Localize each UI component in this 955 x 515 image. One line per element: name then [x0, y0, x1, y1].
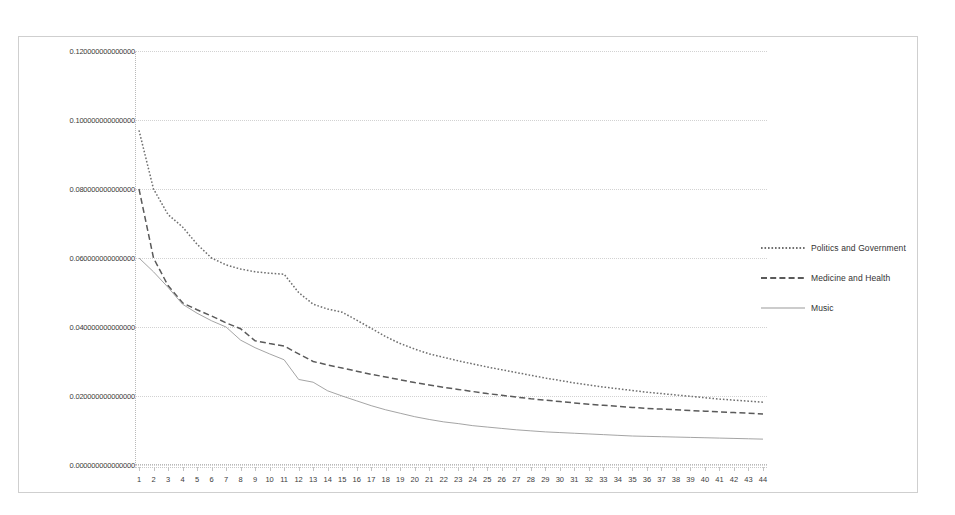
x-axis-tick-label: 17	[367, 475, 375, 484]
x-axis-tick-mark	[763, 467, 764, 471]
x-axis-tick-mark	[197, 467, 198, 471]
x-axis-tick-mark	[270, 467, 271, 471]
x-axis-tick-label: 35	[628, 475, 636, 484]
y-axis-tick-label: 0.080000000000000	[70, 185, 135, 194]
x-axis-tick-label: 38	[672, 475, 680, 484]
x-axis-tick-label: 20	[411, 475, 419, 484]
x-axis-tick-label: 32	[585, 475, 593, 484]
legend-item[interactable]: Music	[761, 297, 951, 318]
x-axis-tick-mark	[618, 467, 619, 471]
x-axis-tick-mark	[168, 467, 169, 471]
x-axis-tick-label: 10	[265, 475, 273, 484]
x-axis-tick-label: 37	[657, 475, 665, 484]
x-axis-tick-mark	[458, 467, 459, 471]
legend-label: Music	[811, 303, 834, 313]
x-axis-tick-mark	[415, 467, 416, 471]
x-axis-tick-mark	[444, 467, 445, 471]
x-axis-tick-mark	[560, 467, 561, 471]
legend-item[interactable]: Medicine and Health	[761, 267, 951, 288]
x-axis-tick-mark	[299, 467, 300, 471]
legend-item[interactable]: Politics and Government	[761, 237, 951, 258]
x-axis-tick-mark	[589, 467, 590, 471]
x-axis-tick-mark	[545, 467, 546, 471]
chart-frame: 0.1200000000000000.1000000000000000.0800…	[18, 36, 918, 493]
x-axis-tick-mark	[603, 467, 604, 471]
y-axis-labels: 0.1200000000000000.1000000000000000.0800…	[31, 51, 135, 465]
y-axis-tick-label: 0.000000000000000	[70, 461, 135, 470]
x-axis-tick-mark	[429, 467, 430, 471]
x-axis-tick-label: 15	[338, 475, 346, 484]
chart-plot-wrapper: 0.1200000000000000.1000000000000000.0800…	[19, 37, 917, 492]
x-axis-tick-mark	[400, 467, 401, 471]
x-axis-tick-label: 12	[294, 475, 302, 484]
x-axis-tick-mark	[313, 467, 314, 471]
y-axis-tick-label: 0.020000000000000	[70, 392, 135, 401]
y-axis-tick-label: 0.060000000000000	[70, 254, 135, 263]
x-axis-tick-mark	[748, 467, 749, 471]
x-axis-tick-mark	[734, 467, 735, 471]
x-axis-tick-label: 1	[137, 475, 141, 484]
x-axis-tick-label: 2	[151, 475, 155, 484]
series-lines	[135, 51, 767, 465]
x-axis-tick-mark	[676, 467, 677, 471]
x-axis-tick-label: 13	[309, 475, 317, 484]
x-axis-tick-mark	[386, 467, 387, 471]
x-axis-tick-label: 25	[483, 475, 491, 484]
legend-swatch-icon	[761, 303, 805, 313]
x-axis-tick-label: 16	[353, 475, 361, 484]
x-axis-tick-mark	[516, 467, 517, 471]
x-axis-tick-mark	[632, 467, 633, 471]
legend-swatch-icon	[761, 273, 805, 283]
x-axis-tick-label: 24	[469, 475, 477, 484]
x-axis-tick-mark	[139, 467, 140, 471]
x-axis-tick-mark	[574, 467, 575, 471]
x-axis-tick-label: 22	[440, 475, 448, 484]
plot-area	[135, 51, 767, 465]
x-axis-tick-label: 44	[759, 475, 767, 484]
x-axis-tick-label: 39	[686, 475, 694, 484]
x-axis-tick-label: 3	[166, 475, 170, 484]
series-line	[139, 258, 763, 439]
y-axis-tick-label: 0.120000000000000	[70, 47, 135, 56]
x-axis-tick-mark	[531, 467, 532, 471]
x-axis-tick-label: 7	[224, 475, 228, 484]
x-axis-tick-label: 4	[180, 475, 184, 484]
x-axis-tick-mark	[502, 467, 503, 471]
x-axis: 1234567891011121314151617181920212223242…	[135, 467, 767, 493]
x-axis-tick-mark	[241, 467, 242, 471]
x-axis-tick-label: 40	[701, 475, 709, 484]
x-axis-tick-mark	[719, 467, 720, 471]
x-axis-tick-label: 8	[238, 475, 242, 484]
x-axis-tick-label: 29	[541, 475, 549, 484]
y-axis-tick-label: 0.100000000000000	[70, 116, 135, 125]
x-axis-tick-label: 19	[396, 475, 404, 484]
x-axis-tick-mark	[473, 467, 474, 471]
x-axis-tick-line	[135, 467, 767, 468]
x-axis-tick-mark	[212, 467, 213, 471]
x-axis-tick-label: 42	[730, 475, 738, 484]
x-axis-tick-mark	[154, 467, 155, 471]
legend-swatch-icon	[761, 243, 805, 253]
x-axis-tick-mark	[705, 467, 706, 471]
x-axis-tick-label: 26	[498, 475, 506, 484]
x-axis-tick-label: 11	[280, 475, 288, 484]
x-axis-tick-label: 34	[614, 475, 622, 484]
x-axis-tick-label: 28	[527, 475, 535, 484]
x-axis-tick-label: 30	[556, 475, 564, 484]
x-axis-tick-label: 14	[323, 475, 331, 484]
x-axis-tick-mark	[487, 467, 488, 471]
x-axis-tick-label: 41	[715, 475, 723, 484]
x-axis-tick-mark	[371, 467, 372, 471]
x-axis-tick-label: 23	[454, 475, 462, 484]
x-axis-tick-mark	[183, 467, 184, 471]
x-axis-tick-label: 27	[512, 475, 520, 484]
x-axis-tick-label: 36	[643, 475, 651, 484]
x-axis-tick-label: 31	[570, 475, 578, 484]
x-axis-tick-mark	[284, 467, 285, 471]
x-axis-tick-mark	[690, 467, 691, 471]
series-line	[139, 130, 763, 402]
x-axis-tick-label: 6	[209, 475, 213, 484]
x-axis-tick-label: 21	[425, 475, 433, 484]
x-axis-tick-mark	[226, 467, 227, 471]
x-axis-tick-mark	[342, 467, 343, 471]
